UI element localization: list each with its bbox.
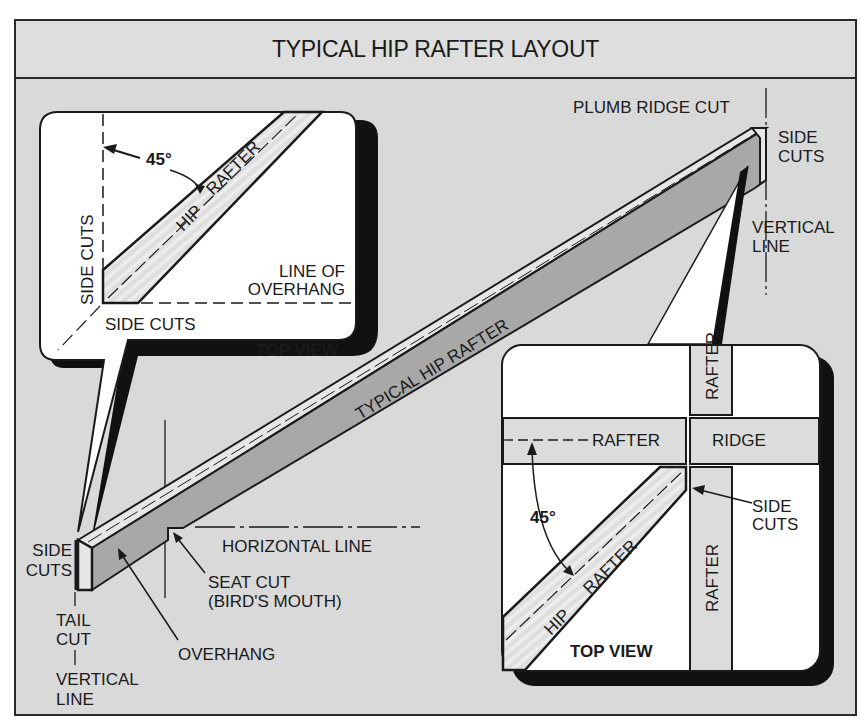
rafter-left-label: RAFTER (592, 431, 660, 450)
angle-label: 45° (530, 508, 556, 527)
vertical-line-bottom-label-1: VERTICAL (56, 670, 139, 689)
top-view-title: TOP VIEW (570, 642, 653, 661)
tail-cut-face (78, 540, 92, 590)
seat-cut-label-2: (BIRD'S MOUTH) (208, 592, 342, 611)
side-cuts-label-2: CUTS (752, 515, 798, 534)
tail-cut-label-2: CUT (56, 630, 91, 649)
overhang-label: OVERHANG (178, 645, 275, 664)
horizontal-line-label: HORIZONTAL LINE (222, 537, 372, 556)
side-cuts-tail-label-1: SIDE (32, 541, 72, 560)
side-cuts-vertical-label: SIDE CUTS (78, 214, 97, 305)
side-cuts-bottom-label: SIDE CUTS (105, 315, 196, 334)
side-cuts-top-label-2: CUTS (778, 147, 824, 166)
arrow-head-icon (173, 532, 183, 543)
side-cuts-label-1: SIDE (752, 497, 792, 516)
ridge-label: RIDGE (712, 431, 766, 450)
vertical-line-top-label-1: VERTICAL (752, 218, 835, 237)
line-of-overhang-label-2: OVERHANG (248, 280, 345, 299)
top-view-title: TOP VIEW (255, 341, 338, 360)
rafter-top-label: RAFTER (703, 332, 722, 400)
rafter-bottom-label: RAFTER (703, 544, 722, 612)
side-cuts-tail-label-2: CUTS (26, 561, 72, 580)
side-cuts-top-label-1: SIDE (778, 128, 818, 147)
angle-label: 45° (146, 150, 172, 169)
tail-cut-label-1: TAIL (56, 611, 91, 630)
vertical-line-top-label-2: LINE (752, 237, 790, 256)
seat-cut-label-1: SEAT CUT (208, 573, 291, 592)
vertical-line-bottom-label-2: LINE (56, 690, 94, 709)
hip-rafter-diagram: 45° HIP RAFTER SIDE CUTS SIDE CUTS LINE … (0, 0, 861, 722)
plumb-ridge-cut-label: PLUMB RIDGE CUT (573, 98, 730, 117)
line-of-overhang-label-1: LINE OF (279, 262, 345, 281)
